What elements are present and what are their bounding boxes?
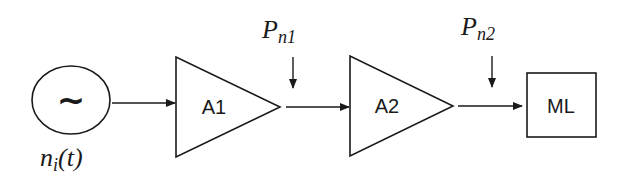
a2-label: A2 bbox=[375, 95, 399, 117]
block-ml: ML bbox=[527, 73, 596, 137]
noise-injection-pn1: Pn1 bbox=[261, 15, 296, 88]
pn2-label: Pn2 bbox=[460, 12, 495, 44]
noise-injection-pn2: Pn2 bbox=[460, 12, 495, 87]
ml-label: ML bbox=[547, 95, 575, 117]
a1-label: A1 bbox=[202, 96, 226, 118]
sine-wave-icon: ~ bbox=[57, 80, 86, 120]
amplifier-a2: A2 bbox=[350, 56, 453, 156]
block-diagram: ~ ni(t) A1 Pn1 A2 Pn2 ML bbox=[0, 0, 631, 180]
noise-source: ~ ni(t) bbox=[32, 66, 110, 175]
source-label: ni(t) bbox=[40, 143, 83, 175]
pn1-label: Pn1 bbox=[261, 15, 296, 47]
amplifier-a1: A1 bbox=[176, 57, 280, 157]
